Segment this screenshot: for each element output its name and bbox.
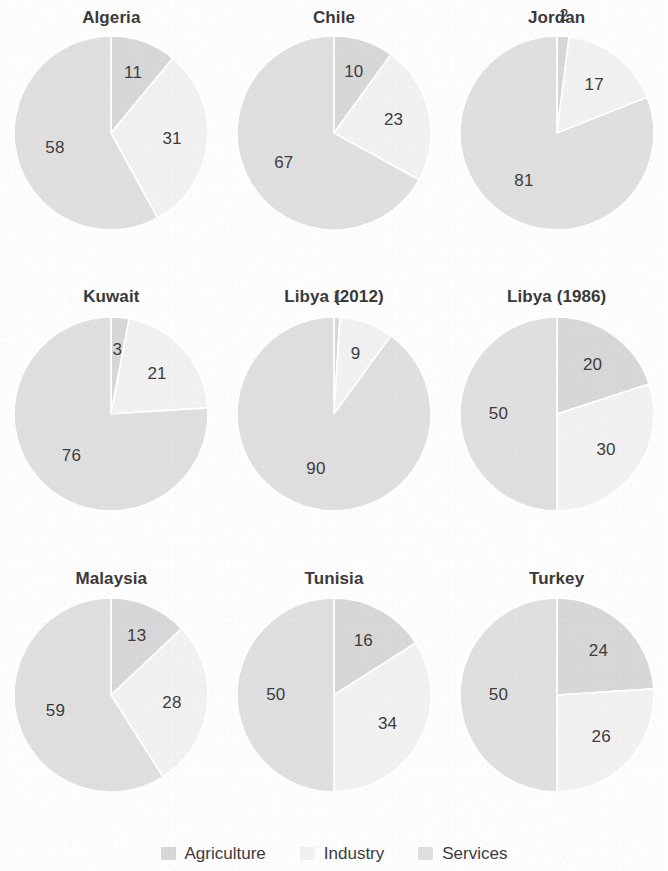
slice-value-label: 20 [583, 355, 602, 375]
slice-value-label: 9 [351, 344, 361, 364]
pie-slice-services [237, 317, 431, 511]
pie-title: Libya (1986) [507, 288, 606, 305]
slice-value-label: 67 [274, 153, 293, 173]
pie-panel: Libya (1986)203050 [445, 280, 668, 560]
pie-panel: Kuwait32176 [0, 280, 223, 560]
pie-title: Kuwait [83, 288, 139, 305]
pie-slice-services [237, 598, 334, 792]
legend-item: Industry [300, 845, 384, 862]
slice-value-label: 24 [589, 641, 608, 661]
pie-svg [236, 35, 432, 231]
pie-panel: Libya (2012)1990 [223, 280, 446, 560]
slice-value-label: 34 [378, 714, 397, 734]
pie-title: Malaysia [75, 570, 147, 587]
slice-value-label: 58 [45, 138, 64, 158]
legend-item: Agriculture [161, 845, 266, 862]
slice-value-label: 21 [147, 364, 166, 384]
pie-chart: 32176 [13, 316, 209, 512]
slice-value-label: 50 [489, 685, 508, 705]
slice-value-label: 50 [489, 404, 508, 424]
pie-slice-services [460, 598, 557, 792]
pie-chart: 102367 [236, 35, 432, 231]
legend-item: Services [418, 845, 507, 862]
slice-value-label: 28 [162, 693, 181, 713]
slice-value-label: 30 [596, 440, 615, 460]
pie-panel: Chile102367 [223, 0, 446, 280]
slice-value-label: 59 [46, 701, 65, 721]
slice-value-label: 81 [514, 171, 533, 191]
slice-value-label: 26 [591, 727, 610, 747]
pie-chart: 132859 [13, 597, 209, 793]
slice-value-label: 10 [344, 62, 363, 82]
slice-value-label: 90 [306, 459, 325, 479]
pie-panel: Jordan21781 [445, 0, 668, 280]
legend-label: Agriculture [185, 845, 266, 862]
pie-chart: 242650 [459, 597, 655, 793]
slice-value-label: 3 [113, 340, 123, 360]
pie-chart: 203050 [459, 316, 655, 512]
slice-value-label: 76 [62, 446, 81, 466]
slice-value-label: 17 [584, 75, 603, 95]
legend-label: Industry [324, 845, 384, 862]
pie-title: Tunisia [305, 570, 364, 587]
pie-svg [13, 316, 209, 512]
slice-value-label: 2 [559, 7, 568, 25]
pie-panel: Turkey242650 [445, 560, 668, 820]
pie-title: Jordan [528, 9, 585, 26]
legend-swatch-icon [418, 847, 433, 860]
slice-value-label: 16 [354, 631, 373, 651]
pie-chart-grid: Algeria113158Chile102367Jordan21781Kuwai… [0, 0, 668, 820]
pie-panel: Tunisia163450 [223, 560, 446, 820]
pie-svg [459, 35, 655, 231]
pie-panel: Malaysia132859 [0, 560, 223, 820]
pie-title: Algeria [82, 9, 140, 26]
pie-svg [236, 316, 432, 512]
pie-title: Chile [313, 9, 355, 26]
pie-title: Turkey [529, 570, 584, 587]
pie-chart: 113158 [13, 35, 209, 231]
pie-chart: 163450 [236, 597, 432, 793]
legend-label: Services [442, 845, 507, 862]
slice-value-label: 23 [384, 110, 403, 130]
pie-chart: 21781 [459, 35, 655, 231]
slice-value-label: 13 [127, 626, 146, 646]
slice-value-label: 50 [266, 685, 285, 705]
slice-value-label: 31 [162, 129, 181, 149]
pie-slice-services [460, 317, 557, 511]
chart-legend: AgricultureIndustryServices [0, 838, 668, 868]
legend-swatch-icon [300, 847, 315, 860]
pie-panel: Algeria113158 [0, 0, 223, 280]
pie-chart: 1990 [236, 316, 432, 512]
legend-swatch-icon [161, 847, 176, 860]
slice-value-label: 11 [124, 63, 142, 83]
slice-value-label: 1 [333, 288, 342, 306]
